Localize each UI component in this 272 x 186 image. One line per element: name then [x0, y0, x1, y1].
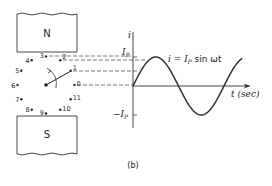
rotor-position-dot-9	[45, 112, 47, 114]
rotor-position-label-1: 1	[73, 64, 77, 72]
y-axis-label: i	[128, 30, 131, 40]
rotor-position-label-7: 7	[15, 96, 19, 104]
rotor-position-label-8: 8	[26, 106, 30, 114]
rotor-position-dot-5	[20, 70, 22, 72]
equation-label: i = IP sin ωt	[168, 54, 222, 65]
rotor-arm	[44, 68, 71, 88]
rotor-position-label-11: 11	[73, 94, 81, 102]
rotor-position-dot-4	[31, 59, 33, 61]
rotor-conductor-line	[46, 71, 71, 85]
rotor-position-dot-0	[73, 84, 75, 86]
projection-lines	[49, 56, 145, 85]
arrowhead-icon	[47, 68, 51, 73]
neg-peak-label: −IP	[113, 109, 129, 120]
peak-label: IP	[121, 47, 131, 58]
south-label: S	[44, 129, 50, 140]
generator-diagram: N S 01234567891011 i t (sec) IP −IP i = …	[0, 0, 272, 186]
rotor-position-dot-3	[45, 55, 47, 57]
figure-label: (b)	[127, 161, 138, 170]
north-magnet: N	[17, 13, 77, 52]
rotor-position-dot-8	[31, 108, 33, 110]
rotor-position-label-6: 6	[11, 82, 15, 90]
north-label: N	[43, 28, 50, 39]
rotation-arrow-icon	[49, 70, 56, 88]
x-axis-label: t (sec)	[231, 89, 260, 99]
rotor-position-label-3: 3	[40, 52, 44, 60]
rotor-position-dot-11	[69, 98, 71, 100]
rotor-position-dot-7	[20, 98, 22, 100]
rotor-position-dot-6	[16, 84, 18, 86]
rotor-position-label-0: 0	[77, 80, 81, 88]
rotor-position-label-5: 5	[15, 67, 19, 75]
rotor-position-label-4: 4	[26, 57, 30, 65]
south-magnet: S	[17, 116, 77, 155]
rotor-position-label-9: 9	[40, 109, 44, 117]
rotor-position-label-10: 10	[62, 105, 70, 113]
graph-axes: i t (sec) IP −IP	[113, 30, 260, 128]
rotor-position-dot-2	[59, 59, 61, 61]
rotor-position-dot-10	[59, 108, 61, 110]
